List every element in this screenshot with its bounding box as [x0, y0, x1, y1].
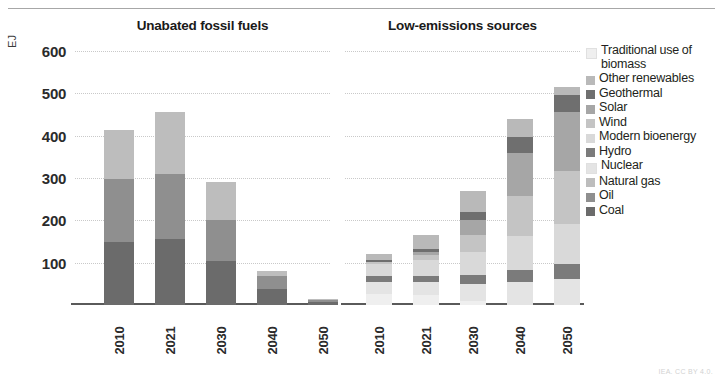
legend-swatch-icon	[586, 119, 595, 128]
y-tick-200: 200	[22, 212, 66, 229]
legend-label: Coal	[599, 204, 624, 218]
gridline-400	[345, 136, 580, 137]
bar-segment-modern-bioenergy	[413, 260, 439, 276]
bar-segment-wind	[460, 235, 486, 252]
bar-2010[interactable]	[366, 254, 392, 305]
bar-segment-coal	[155, 239, 185, 305]
legend-swatch-icon	[586, 134, 595, 143]
bar-segment-geothermal	[460, 212, 486, 220]
bar-segment-other-renewables	[507, 119, 533, 137]
legend-swatch-icon	[586, 48, 597, 59]
bar-segment-other-renewables	[413, 235, 439, 249]
legend-label: Modern bioenergy	[599, 130, 696, 144]
x-tick-2040: 2040	[264, 316, 279, 366]
bar-segment-oil	[206, 220, 236, 260]
x-tick-2050: 2050	[315, 316, 330, 366]
bar-segment-coal	[206, 261, 236, 305]
bar-segment-hydro	[554, 264, 580, 278]
x-tick-2021: 2021	[162, 316, 177, 366]
x-tick-2021: 2021	[418, 316, 433, 366]
legend-item-coal[interactable]: Coal	[586, 204, 723, 218]
gridline-500	[75, 93, 330, 94]
chart-legend: Traditional use of biomassOther renewabl…	[586, 44, 723, 218]
legend-item-geothermal[interactable]: Geothermal	[586, 87, 723, 101]
gridline-300	[345, 178, 580, 179]
legend-item-oil[interactable]: Oil	[586, 189, 723, 203]
bar-2040[interactable]	[257, 271, 287, 305]
y-axis-unit-label: EJ	[6, 35, 18, 48]
bar-2050[interactable]	[308, 299, 338, 305]
bar-2050[interactable]	[554, 87, 580, 305]
legend-swatch-icon	[586, 207, 595, 216]
legend-item-solar[interactable]: Solar	[586, 101, 723, 115]
y-tick-100: 100	[22, 254, 66, 271]
bar-segment-modern-bioenergy	[366, 264, 392, 277]
legend-swatch-icon	[586, 193, 595, 202]
bar-segment-nuclear	[366, 282, 392, 295]
bar-segment-geothermal	[507, 137, 533, 154]
bar-segment-other-renewables	[460, 191, 486, 212]
bar-segment-wind	[554, 171, 580, 224]
bar-2030[interactable]	[206, 182, 236, 305]
bar-2021[interactable]	[413, 235, 439, 305]
legend-item-traditional-use-of-biomass[interactable]: Traditional use of biomass	[586, 44, 723, 71]
legend-item-other-renewables[interactable]: Other renewables	[586, 72, 723, 86]
bar-segment-solar	[507, 153, 533, 195]
legend-label: Hydro	[599, 145, 631, 159]
legend-label: Wind	[599, 116, 627, 130]
legend-swatch-icon	[586, 76, 595, 85]
x-tick-2050: 2050	[559, 316, 574, 366]
bar-2040[interactable]	[507, 119, 533, 305]
legend-label: Other renewables	[599, 72, 694, 86]
bar-2010[interactable]	[104, 130, 134, 305]
bar-segment-geothermal	[554, 95, 580, 112]
chart-figure: EJ 100200300400500600 Unabated fossil fu…	[0, 0, 723, 381]
legend-label: Oil	[599, 189, 614, 203]
legend-item-wind[interactable]: Wind	[586, 116, 723, 130]
legend-item-modern-bioenergy[interactable]: Modern bioenergy	[586, 130, 723, 144]
gridline-600	[345, 51, 580, 52]
bar-segment-traditional-use-of-biomass	[413, 295, 439, 305]
bar-segment-traditional-use-of-biomass	[366, 294, 392, 305]
legend-swatch-icon	[586, 163, 597, 174]
bar-2021[interactable]	[155, 112, 185, 305]
legend-label: Nuclear	[601, 159, 643, 173]
legend-swatch-icon	[586, 90, 595, 99]
legend-label: Natural gas	[599, 175, 660, 189]
bar-segment-coal	[257, 289, 287, 305]
y-tick-500: 500	[22, 85, 66, 102]
bar-segment-natural-gas	[155, 112, 185, 173]
legend-label: Traditional use of biomass	[601, 44, 723, 71]
y-tick-600: 600	[22, 43, 66, 60]
x-tick-2030: 2030	[465, 316, 480, 366]
credit-text: IEA. CC BY 4.0.	[658, 368, 713, 375]
panel-title: Low-emissions sources	[345, 18, 580, 33]
bar-segment-nuclear	[507, 282, 533, 305]
bar-segment-wind	[507, 196, 533, 236]
legend-item-nuclear[interactable]: Nuclear	[586, 159, 723, 174]
bar-segment-modern-bioenergy	[460, 252, 486, 275]
bar-segment-nuclear	[460, 284, 486, 301]
bar-segment-oil	[257, 276, 287, 289]
y-tick-400: 400	[22, 127, 66, 144]
bar-segment-oil	[104, 179, 134, 242]
x-tick-2030: 2030	[213, 316, 228, 366]
panel-unabated-fossil-fuels: Unabated fossil fuels 201020212030204020…	[75, 18, 330, 318]
legend-item-natural-gas[interactable]: Natural gas	[586, 175, 723, 189]
bar-segment-hydro	[507, 270, 533, 282]
y-tick-300: 300	[22, 170, 66, 187]
bar-segment-solar	[554, 112, 580, 171]
bar-2030[interactable]	[460, 191, 486, 305]
x-tick-2040: 2040	[512, 316, 527, 366]
bar-segment-nuclear	[413, 282, 439, 295]
panel-title: Unabated fossil fuels	[75, 18, 330, 33]
top-divider	[8, 8, 715, 9]
bar-segment-coal	[308, 302, 338, 305]
bar-segment-traditional-use-of-biomass	[460, 301, 486, 305]
x-tick-2010: 2010	[371, 316, 386, 366]
legend-label: Geothermal	[599, 87, 662, 101]
plot-area	[75, 51, 330, 305]
bar-segment-solar	[460, 220, 486, 235]
legend-item-hydro[interactable]: Hydro	[586, 145, 723, 159]
bar-segment-natural-gas	[206, 182, 236, 220]
